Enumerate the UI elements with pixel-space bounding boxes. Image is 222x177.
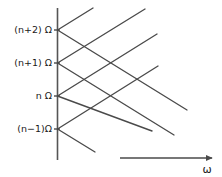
ascending-ray: [58, 34, 158, 96]
level-label-n: n Ω: [36, 90, 52, 101]
level-label-n-minus-1: (n−1)Ω: [17, 123, 52, 134]
ascending-ray: [58, 66, 159, 129]
level-label-n-plus-2: (n+2) Ω: [14, 24, 52, 35]
frequency-ladder-diagram: (n+2) Ω (n+1) Ω n Ω (n−1)Ω ω: [0, 0, 222, 177]
diagram-canvas: (n+2) Ω (n+1) Ω n Ω (n−1)Ω ω: [0, 0, 222, 177]
ascending-ray: [58, 8, 94, 30]
level-label-n-plus-1: (n+1) Ω: [14, 57, 52, 68]
descending-ray: [58, 63, 175, 135]
descending-ray-group: [58, 30, 188, 152]
descending-ray: [58, 96, 153, 131]
ascending-ray: [58, 9, 146, 63]
descending-ray: [58, 129, 96, 152]
ascending-ray-group: [58, 8, 159, 129]
omega-axis-label: ω: [202, 163, 211, 176]
descending-ray: [58, 30, 188, 110]
